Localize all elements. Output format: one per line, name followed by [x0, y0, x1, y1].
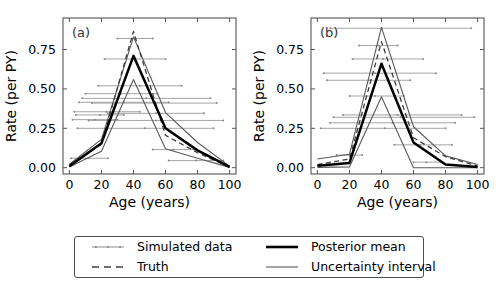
simulated-data-point [374, 72, 376, 74]
simulated-data-point [72, 119, 74, 121]
simulated-data-point [352, 58, 354, 60]
simulated-data-point [73, 111, 75, 113]
simulated-data-point [105, 111, 107, 113]
panel-label: (a) [72, 25, 90, 40]
chart-panel-b: 0204060801000.000.250.500.75(b)Age (year… [248, 0, 498, 222]
simulated-data-point [104, 58, 106, 60]
y-tick-label: 0.50 [276, 81, 304, 96]
y-tick-label: 0.75 [28, 42, 56, 57]
simulated-data-point [454, 122, 456, 124]
legend-label-posterior-mean: Posterior mean [311, 241, 429, 254]
x-tick-label: 40 [126, 177, 142, 192]
simulated-data-point [329, 122, 331, 124]
simulated-data-point [435, 72, 437, 74]
legend: Simulated data Posterior mean Truth Unce… [74, 236, 424, 278]
x-tick-label: 60 [406, 177, 422, 192]
simulated-data-point [152, 149, 154, 151]
x-axis-title: Age (years) [357, 194, 438, 210]
simulated-data-point [97, 85, 99, 87]
simulated-data-point [320, 127, 322, 129]
x-tick-label: 20 [341, 177, 357, 192]
simulated-data-point [326, 79, 328, 81]
simulated-data-point [445, 127, 447, 129]
simulated-data-point [84, 93, 86, 95]
y-tick-label: 0.00 [276, 160, 304, 175]
legend-sample-uncertainty-interval-icon [253, 257, 311, 277]
simulated-data-point [384, 127, 386, 129]
plot-b-svg: 0204060801000.000.250.500.75(b)Age (year… [248, 0, 498, 222]
simulated-data-point [397, 45, 399, 47]
simulated-data-point [451, 144, 453, 146]
y-tick-label: 0.25 [276, 121, 304, 136]
simulated-data-point [342, 114, 344, 116]
x-tick-label: 100 [466, 177, 490, 192]
simulated-data-point [213, 127, 215, 129]
x-tick-label: 80 [438, 177, 454, 192]
chart-panel-a: 0204060801000.000.250.500.75(a)Age (year… [0, 0, 250, 222]
x-tick-label: 0 [65, 177, 73, 192]
simulated-data-point [422, 58, 424, 60]
simulated-data-point [91, 102, 93, 104]
y-tick-label: 0.00 [28, 160, 56, 175]
simulated-data-point [123, 114, 125, 116]
legend-label-truth: Truth [137, 261, 253, 274]
simulated-data-point [165, 58, 167, 60]
simulated-data-point [461, 114, 463, 116]
simulated-data-point [168, 160, 170, 162]
simulated-data-point [413, 161, 415, 163]
simulated-data-point [382, 58, 384, 60]
legend-sample-simulated-data-icon [79, 237, 137, 257]
simulated-data-point [81, 97, 83, 99]
simulated-data-point [139, 111, 141, 113]
figure-container: 0204060801000.000.250.500.75(a)Age (year… [0, 0, 498, 287]
simulated-data-point [209, 97, 211, 99]
simulated-data-point [222, 119, 224, 121]
simulated-data-point [374, 95, 376, 97]
simulated-data-point [99, 114, 101, 116]
y-tick-label: 0.75 [276, 42, 304, 57]
simulated-data-point [332, 116, 334, 118]
simulated-data-point [323, 72, 325, 74]
simulated-data-point [203, 112, 205, 114]
simulated-data-point [155, 119, 157, 121]
x-tick-label: 100 [218, 177, 242, 192]
y-axis-title: Rate (per PY) [3, 50, 19, 142]
simulated-data-point [473, 116, 475, 118]
simulated-data-point [116, 37, 118, 39]
x-tick-label: 0 [313, 177, 321, 192]
simulated-data-point [152, 37, 154, 39]
simulated-data-point [107, 112, 109, 114]
x-tick-label: 20 [93, 177, 109, 192]
x-tick-label: 60 [158, 177, 174, 192]
simulated-data-point [409, 79, 411, 81]
y-tick-label: 0.50 [28, 81, 56, 96]
y-axis-title: Rate (per PY) [251, 50, 267, 142]
simulated-data-point [78, 101, 80, 103]
panel-label: (b) [320, 25, 338, 40]
simulated-data-point [470, 27, 472, 29]
x-tick-label: 40 [374, 177, 390, 192]
x-axis-title: Age (years) [109, 194, 190, 210]
simulated-data-point [88, 119, 90, 121]
simulated-data-point [155, 112, 157, 114]
simulated-data-point [358, 45, 360, 47]
simulated-data-point [348, 95, 350, 97]
simulated-data-point [75, 114, 77, 116]
simulated-data-point [216, 102, 218, 104]
simulated-data-point [195, 160, 197, 162]
plot-a-svg: 0204060801000.000.250.500.75(a)Age (year… [0, 0, 250, 222]
simulated-data-point [76, 127, 78, 129]
simulated-data-point [107, 157, 109, 159]
simulated-data-point [173, 149, 175, 151]
axes-frame [63, 18, 236, 174]
legend-label-simulated-data: Simulated data [137, 241, 253, 254]
legend-label-uncertainty-interval: Uncertainty interval [311, 261, 429, 274]
simulated-data-point [144, 127, 146, 129]
simulated-data-point [361, 154, 363, 156]
x-tick-label: 80 [190, 177, 206, 192]
y-tick-label: 0.25 [28, 121, 56, 136]
simulated-data-point [139, 85, 141, 87]
legend-sample-posterior-mean-icon [253, 237, 311, 257]
simulated-data-point [181, 85, 183, 87]
legend-sample-truth-icon [79, 257, 137, 277]
